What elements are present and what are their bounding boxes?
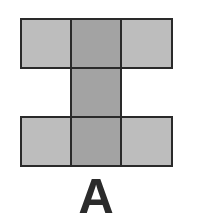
square-middle-center xyxy=(70,67,122,118)
square-top-right xyxy=(120,18,173,69)
figure-label: A xyxy=(0,172,192,213)
square-bottom-center xyxy=(70,116,122,167)
square-top-left xyxy=(20,18,72,69)
square-bottom-left xyxy=(20,116,72,167)
square-top-center xyxy=(70,18,122,69)
square-bottom-right xyxy=(120,116,173,167)
